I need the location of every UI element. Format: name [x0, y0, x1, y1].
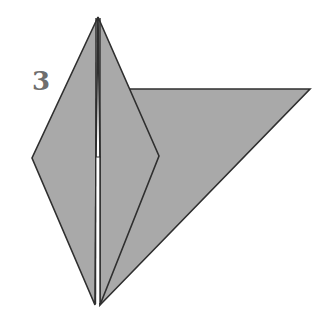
center-crease-left [96, 18, 97, 304]
kite-left-half [32, 17, 98, 305]
origami-diagram-canvas: 3 [0, 0, 326, 332]
origami-fold-diagram [0, 0, 326, 332]
